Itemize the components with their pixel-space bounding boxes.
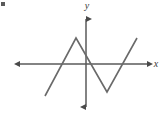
coordinate-plane-svg: x y: [0, 0, 167, 117]
x-axis-label: x: [153, 58, 159, 69]
zigzag-curve: [45, 38, 137, 96]
graph-figure: x y: [0, 0, 167, 117]
y-axis-label: y: [84, 0, 90, 11]
